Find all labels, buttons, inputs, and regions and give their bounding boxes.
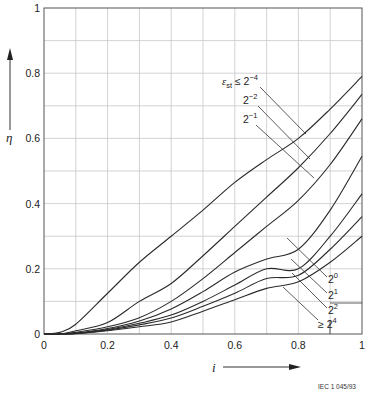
x-tick: 0.6 — [227, 339, 242, 351]
y-tick: 0.4 — [25, 198, 40, 210]
label-2p0: 20 — [328, 271, 338, 285]
grid-lines — [44, 8, 362, 334]
y-tick: 0.8 — [25, 67, 40, 79]
label-2p2: 22 — [328, 302, 338, 316]
label-eps-2m4: εst ≤ 2−4 — [222, 73, 258, 90]
label-2p1: 21 — [328, 287, 338, 301]
leader-lines — [256, 87, 362, 334]
x-tick-labels: 00.20.40.60.81 — [41, 339, 365, 351]
x-tick: 0 — [41, 339, 47, 351]
y-tick: 0.6 — [25, 132, 40, 144]
label-ge-2p4: ≥ 24 — [318, 316, 337, 330]
y-tick: 0.2 — [25, 263, 40, 275]
x-tick: 0.8 — [291, 339, 306, 351]
label-2m2: 2−2 — [243, 92, 257, 106]
y-axis-arrow-icon — [7, 48, 13, 130]
x-tick: 1 — [359, 339, 365, 351]
y-tick: 1 — [34, 2, 40, 14]
x-tick: 0.2 — [100, 339, 115, 351]
footnote: IEC 1 045/93 — [318, 383, 356, 390]
x-axis-label: i — [212, 360, 216, 375]
x-tick: 0.4 — [164, 339, 179, 351]
efficiency-chart: 00.20.40.60.81 00.20.40.60.81 η i εst ≤ … — [0, 0, 371, 398]
label-2m1: 2−1 — [243, 111, 257, 125]
y-tick: 0 — [34, 328, 40, 340]
x-axis-arrow-icon — [223, 364, 301, 370]
y-tick-labels: 00.20.40.60.81 — [25, 2, 40, 340]
y-axis-label: η — [6, 130, 12, 145]
